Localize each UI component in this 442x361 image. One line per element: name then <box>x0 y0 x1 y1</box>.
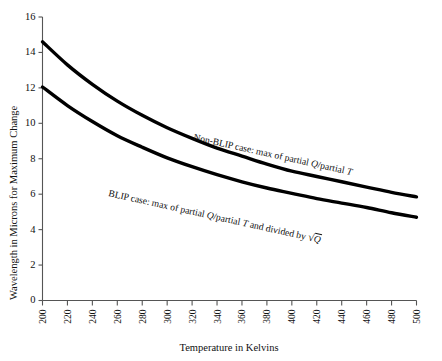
chart-container: 0246810121416 20022024026028030032034036… <box>0 0 442 361</box>
y-tick-label: 10 <box>25 117 36 128</box>
annotation-non-blip: Non-BLIP case: max of partial Q/partial … <box>193 131 354 177</box>
x-axis: 2002202402602803003203403603804004204404… <box>38 301 422 324</box>
x-tick-label: 400 <box>287 309 297 324</box>
annotation-blip: BLIP case: max of partial Q/partial T an… <box>108 186 323 245</box>
y-tick-label: 16 <box>25 11 36 22</box>
x-tick-label: 220 <box>63 309 73 324</box>
x-tick-label: 340 <box>213 309 223 324</box>
series-group <box>43 42 417 217</box>
y-tick-label: 14 <box>25 46 36 57</box>
y-tick-label: 4 <box>30 224 36 235</box>
y-axis: 0246810121416 <box>25 11 43 306</box>
line-chart: 0246810121416 20022024026028030032034036… <box>0 0 442 361</box>
x-tick-label: 360 <box>237 309 247 324</box>
x-tick-label: 440 <box>337 309 347 324</box>
x-tick-label: 420 <box>312 309 322 324</box>
x-tick-label: 200 <box>38 309 48 324</box>
x-tick-label: 280 <box>138 309 148 324</box>
x-tick-label: 480 <box>387 309 397 324</box>
x-tick-label: 300 <box>163 309 173 324</box>
y-tick-label: 8 <box>30 153 35 164</box>
annotation-blip-text: BLIP case: max of partial Q/partial T an… <box>108 186 323 245</box>
x-tick-label: 380 <box>262 309 272 324</box>
series-line-non-blip <box>43 42 417 197</box>
x-tick-label: 460 <box>362 309 372 324</box>
x-tick-label: 500 <box>412 309 422 324</box>
x-tick-label: 320 <box>188 309 198 324</box>
y-axis-title: Wavelength in Microns for Maximum Change <box>8 105 19 300</box>
y-tick-label: 6 <box>30 188 35 199</box>
x-tick-group: 2002202402602803003203403603804004204404… <box>38 301 422 324</box>
x-tick-label: 260 <box>113 309 123 324</box>
y-tick-label: 2 <box>30 259 35 270</box>
x-axis-title-text: Temperature in Kelvins <box>180 342 279 353</box>
y-tick-label: 12 <box>25 82 36 93</box>
x-tick-label: 240 <box>88 309 98 324</box>
y-axis-title-text: Wavelength in Microns for Maximum Change <box>8 105 19 300</box>
y-tick-group: 0246810121416 <box>25 11 43 306</box>
x-axis-title: Temperature in Kelvins <box>180 342 279 353</box>
annotation-non-blip-text: Non-BLIP case: max of partial Q/partial … <box>193 131 354 177</box>
y-tick-label: 0 <box>30 294 35 305</box>
